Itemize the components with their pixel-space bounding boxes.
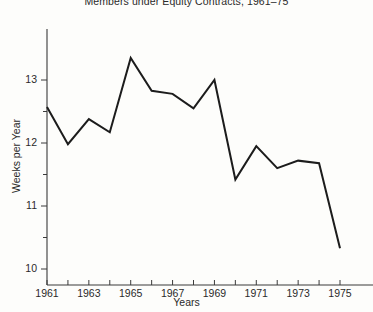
x-axis-label: Years — [0, 296, 373, 308]
y-tick-label-13: 13 — [25, 73, 37, 85]
y-tick-label-10: 10 — [25, 262, 37, 274]
line-chart-plot: 10111213 1961196319651967196919711973197… — [0, 0, 373, 312]
chart-page: Members under Equity Contracts, 1961–75 … — [0, 0, 373, 312]
y-tick-label-11: 11 — [26, 199, 37, 211]
y-axis: 10111213 — [25, 29, 47, 285]
y-tick-label-12: 12 — [25, 136, 37, 148]
y-axis-label: Weeks per Year — [10, 106, 22, 206]
series-line-weeks-per-year — [47, 58, 340, 248]
data-series-weeks-per-year — [47, 58, 340, 248]
